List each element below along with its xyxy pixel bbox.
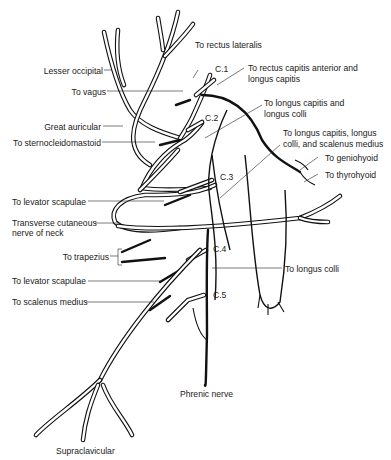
label-to-sternocleidomastoid: To sternocleidomastoid — [13, 138, 101, 148]
label-supraclavicular: Supraclavicular — [56, 446, 115, 456]
label-to-geniohyoid: To geniohyoid — [325, 153, 378, 163]
label-great-auricular: Great auricular — [44, 122, 101, 132]
label-to-longus-scalenus-1: To longus capitis, longus — [283, 128, 377, 138]
label-to-longus-capitis-colli-1: To longus capitis and — [264, 98, 344, 108]
label-c2: C.2 — [205, 113, 218, 123]
label-transverse-cutaneous-1: Transverse cutaneous — [12, 218, 97, 228]
label-to-scalenus-medius: To scalenus medius — [12, 297, 87, 307]
label-transverse-cutaneous-2: nerve of neck — [12, 228, 64, 238]
label-phrenic-nerve: Phrenic nerve — [180, 389, 233, 399]
label-to-rectus-capitis-2: longus capitis — [248, 74, 300, 84]
label-to-levator-scapulae-2: To levator scapulae — [12, 276, 86, 286]
label-c4: C.4 — [213, 244, 226, 254]
label-to-longus-capitis-colli-2: longus colli — [264, 109, 307, 119]
label-c5: C.5 — [213, 290, 226, 300]
label-to-levator-scapulae-1: To levator scapulae — [12, 197, 86, 207]
label-to-thyrohyoid: To thyrohyoid — [325, 170, 376, 180]
label-to-rectus-lateralis: To rectus lateralis — [195, 40, 262, 50]
ansa-loops — [114, 75, 215, 230]
label-to-rectus-capitis-1: To rectus capitis anterior and — [248, 63, 358, 73]
label-to-longus-colli: To longus colli — [285, 264, 339, 274]
label-to-trapezius: To trapezius — [63, 252, 109, 262]
label-to-vagus: To vagus — [72, 87, 106, 97]
label-lesser-occipital: Lesser occipital — [44, 66, 103, 76]
ansa-cervicalis-loop — [245, 155, 286, 315]
label-to-longus-scalenus-2: colli, and scalenus medius — [283, 139, 383, 149]
label-c3: C.3 — [220, 172, 233, 182]
label-c1: C.1 — [215, 64, 228, 74]
